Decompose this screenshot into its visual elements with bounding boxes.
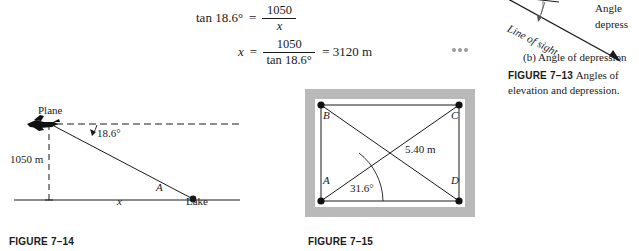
airplane-icon (27, 115, 60, 131)
corner-dot-a (317, 197, 324, 204)
corner-label-b: B (323, 109, 330, 121)
equation-1-numerator: 1050 (264, 4, 295, 18)
equation-block: tan 18.6° = 1050 x x = 1050 tan 18.6° = … (196, 4, 416, 66)
equation-2-numerator: 1050 (274, 38, 305, 52)
dot-icon (464, 48, 468, 52)
equation-2-fraction: 1050 tan 18.6° (263, 38, 315, 66)
depression-word-label: depress (595, 18, 628, 30)
base-distance-label: x (117, 195, 122, 207)
end-of-example-marker (452, 48, 468, 52)
leader-arrowhead-icon (537, 15, 542, 22)
corner-dot-d (455, 197, 462, 204)
horizontal-reference-line (497, 0, 559, 2)
figure-7-13-caption-label: FIGURE 7–13 (508, 70, 573, 81)
figure-7-15-caption-label: FIGURE 7–15 (308, 236, 373, 247)
corner-dot-c (455, 101, 462, 108)
side-length-label: 5.40 m (405, 143, 436, 155)
equation-2-denominator: tan 18.6° (263, 53, 314, 67)
corner-label-d: D (451, 174, 459, 186)
corner-label-a: A (323, 174, 330, 186)
figure-7-13-caption: FIGURE 7–13 Angles of elevation and depr… (508, 68, 639, 98)
corner-dot-b (317, 101, 324, 108)
lake-label: Lake (186, 195, 208, 207)
dot-icon (458, 48, 462, 52)
figure-7-14-caption-label: FIGURE 7–14 (9, 236, 74, 247)
equation-1-fraction: 1050 x (262, 4, 296, 32)
line-of-sight-hypotenuse (54, 126, 193, 199)
equation-2-lhs: x (238, 45, 244, 59)
corner-label-c: C (451, 109, 458, 121)
angle-label: 31.6° (350, 182, 374, 194)
subfigure-b-caption: (b) Angle of depression (523, 51, 627, 63)
figure-7-15: B C A D 5.40 m 31.6° (305, 89, 475, 217)
angle-label: 18.6° (97, 127, 121, 139)
plane-label: Plane (38, 104, 62, 116)
equation-line-1: tan 18.6° = 1050 x (196, 4, 416, 32)
angle-word-label: Angle (595, 2, 622, 14)
textbook-page: tan 18.6° = 1050 x x = 1050 tan 18.6° = … (0, 0, 639, 251)
figure-7-14: Plane 18.6° 1050 m x A Lake (0, 96, 246, 226)
dot-icon (452, 48, 456, 52)
equation-1-lhs: tan 18.6° (196, 11, 243, 25)
equation-2-result: = 3120 m (322, 45, 372, 59)
equation-1-denominator: x (274, 19, 286, 33)
equation-line-2: x = 1050 tan 18.6° = 3120 m (196, 38, 416, 66)
figure-7-14-caption: FIGURE 7–14 (9, 231, 74, 249)
altitude-label: 1050 m (10, 153, 43, 165)
figure-7-15-caption: FIGURE 7–15 (308, 231, 373, 249)
point-a-label: A (156, 181, 163, 193)
figure-7-15-graphic (305, 89, 475, 217)
equation-2-equals: = (250, 45, 257, 59)
equation-1-equals: = (249, 11, 256, 25)
